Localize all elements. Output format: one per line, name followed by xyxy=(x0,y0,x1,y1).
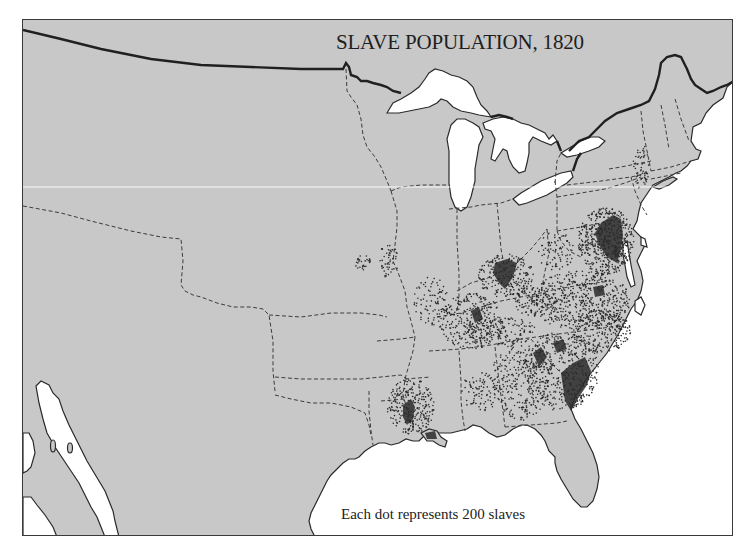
us-map xyxy=(23,20,733,536)
map-title: SLAVE POPULATION, 1820 xyxy=(336,30,584,55)
map-legend: Each dot represents 200 slaves xyxy=(341,506,525,523)
baja-island xyxy=(51,440,56,452)
baja-island xyxy=(68,443,73,453)
map-frame: SLAVE POPULATION, 1820 Each dot represen… xyxy=(22,19,733,536)
